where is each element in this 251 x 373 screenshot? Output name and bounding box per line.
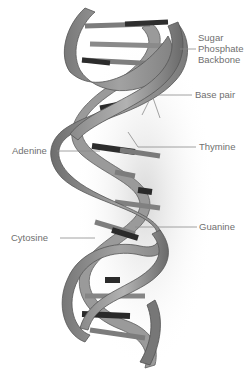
label-thymine: Thymine	[199, 141, 235, 152]
dna-double-helix-diagram: Sugar Phosphate Backbone Base pair Adeni…	[0, 0, 251, 373]
label-adenine: Adenine	[12, 145, 47, 156]
label-phosphate: Phosphate	[198, 43, 243, 54]
label-sugar: Sugar	[198, 32, 243, 43]
label-backbone: Backbone	[198, 54, 243, 65]
label-sugar-phosphate-backbone: Sugar Phosphate Backbone	[198, 32, 243, 65]
base-pair-rung	[82, 60, 110, 63]
base-pair-rung	[90, 44, 170, 46]
label-guanine: Guanine	[199, 221, 235, 232]
base-pair-rung	[138, 190, 152, 192]
label-base-pair: Base pair	[195, 89, 235, 100]
label-cytosine: Cytosine	[11, 232, 48, 243]
base-pair-rung	[125, 22, 168, 24]
